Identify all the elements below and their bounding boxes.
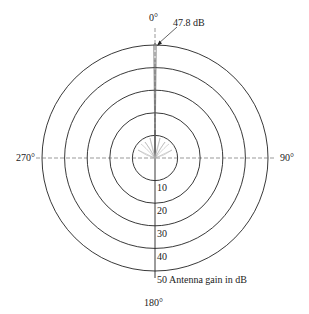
ring-label-40: 40 (157, 252, 167, 262)
angle-label-270: 270° (16, 153, 35, 163)
ring-label-10: 10 (157, 183, 167, 193)
angle-label-180: 180° (144, 298, 163, 308)
angle-label-90: 90° (280, 153, 294, 163)
ring-label-20: 20 (157, 206, 167, 216)
ring-label-30: 30 (157, 229, 167, 239)
peak-arrow (158, 27, 177, 44)
angle-label-0: 0° (149, 13, 158, 23)
peak-gain-label: 47.8 dB (173, 18, 205, 28)
polar-plot (0, 0, 309, 314)
ring-label-50: 50 Antenna gain in dB (157, 275, 247, 285)
